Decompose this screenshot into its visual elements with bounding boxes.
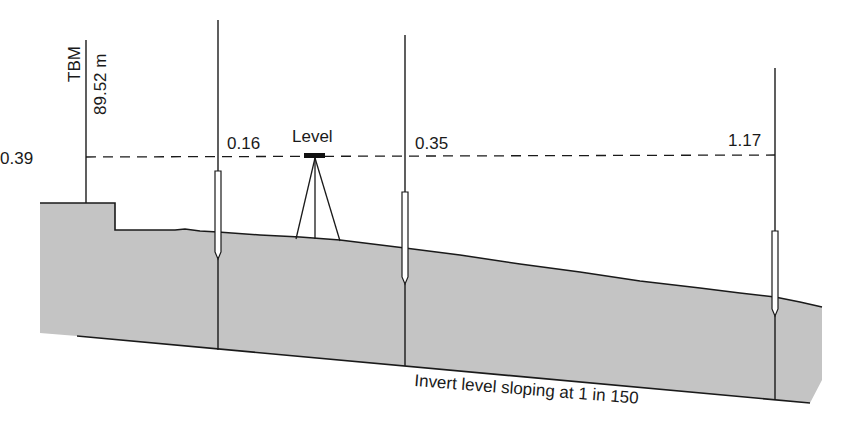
staff-2-reading-label: 0.35 bbox=[415, 134, 448, 153]
line-of-collimation bbox=[86, 155, 775, 157]
levelling-diagram: TBM 89.52 m 0.39 0.16 Level 0.35 1.17 In… bbox=[0, 0, 852, 432]
tbm-label: TBM bbox=[65, 46, 84, 82]
level-instrument bbox=[296, 153, 340, 241]
level-telescope bbox=[304, 153, 325, 158]
peg-3 bbox=[772, 231, 778, 316]
peg-2 bbox=[402, 192, 408, 284]
staff-3-reading-label: 1.17 bbox=[728, 131, 761, 150]
staff-1-reading-label: 0.16 bbox=[227, 134, 260, 153]
tbm-elevation-label: 89.52 m bbox=[91, 54, 110, 115]
peg-1 bbox=[215, 171, 221, 259]
level-label: Level bbox=[292, 127, 333, 146]
tbm-reading-label: 0.39 bbox=[0, 149, 33, 168]
